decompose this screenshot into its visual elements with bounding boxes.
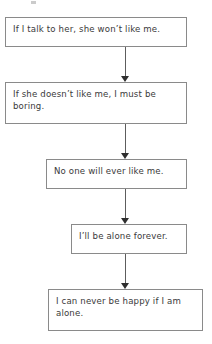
flowchart-node-2-label: If she doesn’t like me, I must be boring…: [13, 88, 186, 113]
flowchart-node-1: If I talk to her, she won’t like me.: [5, 17, 187, 47]
flowchart-node-4: I’ll be alone forever.: [71, 224, 187, 254]
arrow-shaft: [125, 189, 126, 218]
flowchart-diagram: If I talk to her, she won’t like me. If …: [0, 0, 212, 344]
flowchart-node-1-label: If I talk to her, she won’t like me.: [13, 23, 186, 35]
scan-artifact: [31, 1, 36, 4]
flowchart-arrow-3: [119, 189, 132, 224]
flowchart-arrow-4: [119, 254, 132, 289]
flowchart-node-2: If she doesn’t like me, I must be boring…: [5, 82, 187, 124]
flowchart-arrow-1: [119, 47, 132, 82]
arrow-shaft: [125, 254, 126, 283]
flowchart-node-3: No one will ever like me.: [46, 159, 187, 189]
arrow-shaft: [125, 47, 126, 76]
flowchart-node-5: I can never be happy if I am alone.: [48, 289, 203, 331]
flowchart-node-5-label: I can never be happy if I am alone.: [56, 295, 202, 320]
flowchart-node-4-label: I’ll be alone forever.: [79, 230, 186, 242]
flowchart-arrow-2: [119, 124, 132, 159]
flowchart-node-3-label: No one will ever like me.: [54, 165, 186, 177]
arrow-shaft: [125, 124, 126, 153]
